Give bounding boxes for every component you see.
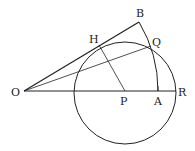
segment-ph [99,45,125,91]
label-h: H [89,33,99,46]
label-b: B [136,7,144,20]
label-q: Q [152,36,161,49]
diagram-canvas: O B H Q P A R [0,0,195,151]
label-p: P [120,95,128,108]
circle-p [74,42,176,144]
label-r: R [178,86,187,99]
geometry-diagram: O B H Q P A R [0,0,195,151]
label-o: O [11,86,20,99]
arc-ab [139,22,158,91]
label-a: A [153,95,163,108]
